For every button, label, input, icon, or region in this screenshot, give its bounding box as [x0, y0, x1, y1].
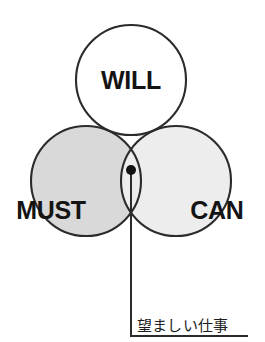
venn-diagram-canvas: WILL MUST CAN 望ましい仕事 — [0, 0, 265, 342]
circle-label-must: MUST — [16, 196, 86, 224]
callout-marker-dot — [126, 165, 136, 175]
circle-label-can: CAN — [190, 196, 243, 224]
callout-caption: 望ましい仕事 — [137, 317, 228, 335]
venn-diagram-container: WILL MUST CAN 望ましい仕事 — [0, 0, 265, 342]
circle-label-will: WILL — [101, 66, 161, 94]
